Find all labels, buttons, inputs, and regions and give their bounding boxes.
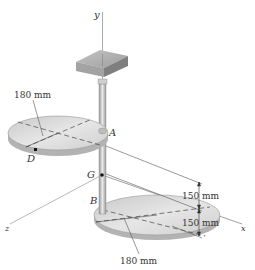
upper-disk	[8, 116, 108, 156]
x-axis-label: x	[241, 224, 246, 233]
point-g-label: G	[87, 169, 95, 180]
z-axis	[10, 175, 102, 224]
lower-spacing-label: 150 mm	[182, 218, 220, 228]
shaft	[99, 84, 106, 214]
collar-a	[99, 128, 107, 134]
point-d-marker	[34, 148, 37, 151]
point-g-marker	[100, 173, 104, 177]
lower-radius-label: 180 mm	[120, 256, 158, 266]
y-axis-label: y	[93, 9, 100, 20]
upper-spacing-label: 150 mm	[182, 191, 220, 201]
point-b-label: B	[89, 195, 97, 206]
upper-radius-label: 180 mm	[14, 90, 52, 100]
extension-line-top	[106, 146, 202, 184]
point-d-label: D	[26, 153, 35, 164]
point-a-label: A	[108, 127, 116, 138]
z-axis-label: z	[4, 224, 10, 233]
mechanics-figure: y x z A D G B 180 mm 180 mm 150 mm 150 m…	[0, 0, 255, 270]
weight-box	[76, 50, 128, 84]
